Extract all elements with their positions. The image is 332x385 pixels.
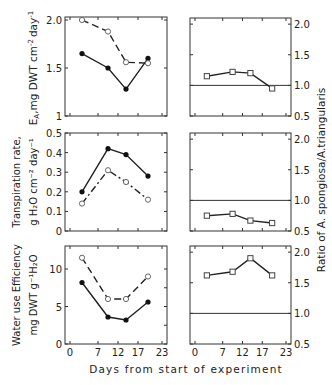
middle-right-panel: 0.51.01.52.0: [190, 133, 310, 237]
x-tick-label: 17: [132, 347, 145, 358]
middle-left-panel: 00.10.20.30.40.5: [46, 128, 167, 237]
series-line: [82, 149, 148, 192]
plot-frame: [65, 133, 167, 231]
data-point: [145, 197, 150, 202]
data-point: [105, 296, 110, 301]
plot-frame: [190, 18, 291, 116]
data-point: [230, 211, 235, 216]
y-tick-label: 10: [49, 264, 62, 275]
series-line: [82, 20, 148, 63]
data-point: [123, 179, 128, 184]
top-left-panel: 11.52.0: [46, 15, 167, 122]
right-ylabel: Ratio of A. spongiosa/A.triangularis: [315, 88, 327, 272]
y-tick-label: 0.5: [294, 339, 310, 350]
bottom-left-panel: 071217230510: [49, 246, 168, 358]
y-tick-label: 1.5: [294, 165, 310, 176]
panels: 11.52.00.51.01.52.000.10.20.30.40.50.51.…: [46, 15, 310, 358]
data-point: [270, 220, 275, 225]
x-tick-label: 0: [67, 347, 73, 358]
y-tick-label: 1.5: [294, 278, 310, 289]
series-line: [207, 72, 272, 89]
y-tick-label: 0.5: [294, 111, 310, 122]
data-point: [123, 317, 128, 322]
bottom-right-panel: 071217230.51.01.52.0: [190, 246, 310, 358]
series-line: [82, 283, 148, 321]
data-point: [105, 65, 110, 70]
x-axis-label: Days from start of experiment: [89, 363, 283, 375]
x-tick-label: 23: [156, 347, 169, 358]
data-point: [204, 74, 209, 79]
series-line: [82, 54, 148, 90]
y-tick-label: 2.0: [294, 247, 310, 258]
series-line: [207, 214, 272, 223]
y-tick-label: 0.1: [46, 206, 62, 217]
plot-frame: [65, 246, 167, 344]
data-point: [105, 168, 110, 173]
top-right-panel: 0.51.01.52.0: [190, 18, 310, 122]
data-point: [270, 86, 275, 91]
data-point: [105, 314, 110, 319]
plot-frame: [65, 17, 167, 116]
y-tick-label: 2.0: [294, 19, 310, 30]
top-left-ylabel: EA,mg DWT cm-2day-1: [27, 11, 41, 126]
series-line: [207, 258, 272, 275]
data-point: [123, 296, 128, 301]
data-point: [230, 69, 235, 74]
plot-frame: [190, 246, 291, 344]
figure: 11.52.00.51.01.52.000.10.20.30.40.50.51.…: [0, 0, 332, 385]
y-tick-label: 1.0: [294, 308, 310, 319]
series-line: [82, 258, 148, 299]
y-tick-label: 2.0: [294, 134, 310, 145]
bottom-left-ylabel-line2: mg DWT g⁻¹H₂O: [28, 254, 39, 335]
y-tick-label: 1.0: [294, 195, 310, 206]
x-tick-label: 23: [280, 347, 293, 358]
data-point: [248, 71, 253, 76]
middle-left-ylabel-line1: Transpiration rate,: [11, 136, 22, 229]
y-tick-label: 1.5: [294, 50, 310, 61]
middle-left-ylabel-line2: g H₂O cm⁻² day⁻¹: [28, 138, 39, 226]
data-point: [145, 274, 150, 279]
y-tick-label: 0.3: [46, 167, 62, 178]
data-point: [123, 87, 128, 92]
data-point: [79, 280, 84, 285]
y-tick-label: 5: [56, 302, 62, 313]
data-point: [270, 273, 275, 278]
y-tick-label: 0: [56, 226, 62, 237]
y-tick-label: 0.2: [46, 187, 62, 198]
data-point: [204, 273, 209, 278]
data-point: [79, 201, 84, 206]
x-tick-label: 7: [220, 347, 226, 358]
y-tick-label: 1: [56, 111, 62, 122]
x-tick-label: 17: [256, 347, 269, 358]
y-tick-label: 0.5: [46, 128, 62, 139]
data-point: [79, 255, 84, 260]
x-tick-label: 12: [112, 347, 125, 358]
data-point: [105, 146, 110, 151]
data-point: [79, 51, 84, 56]
x-tick-label: 7: [95, 347, 101, 358]
data-point: [79, 17, 84, 22]
y-tick-label: 1.0: [294, 80, 310, 91]
data-point: [123, 60, 128, 65]
y-tick-label: 0.4: [46, 148, 62, 159]
data-point: [230, 269, 235, 274]
data-point: [79, 189, 84, 194]
y-tick-label: 0.5: [294, 226, 310, 237]
x-tick-label: 12: [236, 347, 249, 358]
y-tick-label: 2.0: [46, 15, 62, 26]
data-point: [123, 152, 128, 157]
x-tick-label: 0: [192, 347, 198, 358]
data-point: [248, 256, 253, 261]
data-point: [145, 299, 150, 304]
data-point: [204, 213, 209, 218]
data-point: [105, 29, 110, 34]
bottom-left-ylabel-line1: Water use Efficiency: [11, 244, 22, 346]
data-point: [145, 174, 150, 179]
y-tick-label: 0: [56, 339, 62, 350]
data-point: [145, 61, 150, 66]
data-point: [248, 218, 253, 223]
y-tick-label: 1.5: [46, 63, 62, 74]
